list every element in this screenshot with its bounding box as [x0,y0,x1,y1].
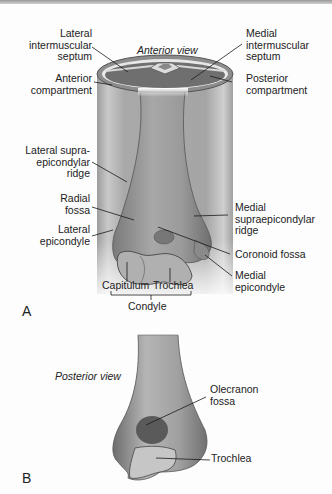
label-trochlea-posterior: Trochlea [211,453,251,465]
label-medial-epicondyle: Medial epicondyle [235,270,285,293]
label-capitulum: Capitulum [102,280,149,292]
label-lateral-supraepicondylar-ridge: Lateral supra- epicondylar ridge [10,145,90,180]
label-posterior-compartment: Posterior compartment [246,73,307,96]
label-anterior-compartment: Anterior compartment [20,73,92,96]
label-radial-fossa: Radial fossa [30,193,90,216]
label-lateral-epicondyle: Lateral epicondyle [20,224,90,247]
label-medial-supraepicondylar-ridge: Medial supraepicondylar ridge [235,202,315,237]
humerus-posterior [113,330,207,480]
panel-letter-a: A [22,303,31,319]
label-condyle: Condyle [128,301,167,313]
label-lateral-intermuscular-septum: Lateral intermuscular septum [24,28,92,63]
label-olecranon-fossa: Olecranon fossa [210,384,258,407]
posterior-view-title: Posterior view [55,371,121,383]
panel-letter-b: B [22,470,31,486]
label-medial-intermuscular-septum: Medial intermuscular septum [246,28,309,63]
anterior-view-title: Anterior view [137,45,198,57]
label-coronoid-fossa: Coronoid fossa [235,249,306,261]
olecranon-fossa-area [136,416,168,444]
label-trochlea-anterior: Trochlea [153,280,193,292]
